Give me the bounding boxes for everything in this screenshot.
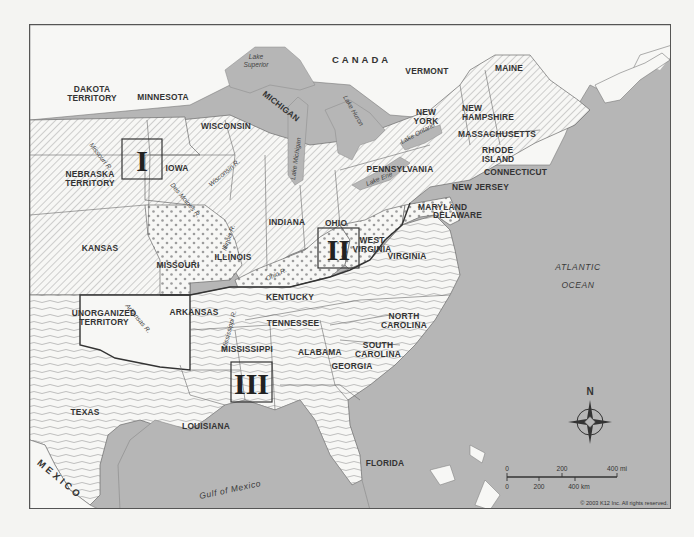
label-maine: MAINE [495, 63, 523, 73]
label-indiana: INDIANA [269, 217, 305, 227]
svg-text:III: III [234, 367, 269, 400]
label-vermont: VERMONT [405, 66, 449, 76]
label-new-jersey: NEW JERSEY [452, 182, 509, 192]
label-south-carolina-2: CAROLINA [355, 349, 401, 359]
label-wisconsin: WISCONSIN [201, 121, 251, 131]
scale-km-200: 200 [533, 483, 544, 490]
region-marker-III: III [231, 362, 272, 402]
label-new-hampshire-2: HAMPSHIRE [462, 112, 514, 122]
label-nebraska-2: TERRITORY [65, 178, 115, 188]
label-delaware: DELAWARE [433, 210, 482, 220]
label-ohio: OHIO [325, 218, 347, 228]
scale-km-0: 0 [505, 483, 509, 490]
svg-text:N: N [586, 386, 593, 397]
label-mississippi: MISSISSIPPI [221, 344, 273, 354]
copyright-text: © 2003 K12 Inc. All rights reserved. [580, 500, 668, 506]
label-kansas: KANSAS [82, 243, 119, 253]
svg-text:II: II [327, 233, 350, 266]
label-louisiana: LOUISIANA [182, 421, 230, 431]
label-virginia: VIRGINIA [388, 251, 427, 261]
label-pennsylvania: PENNSYLVANIA [367, 164, 434, 174]
scale-mi-400: 400 mi [607, 465, 627, 472]
label-west-virginia-2: VIRGINIA [353, 244, 392, 254]
map-canvas: I II III CANADA MEXICO ATLANTIC OCEAN Gu… [30, 25, 671, 509]
label-alabama: ALABAMA [298, 347, 342, 357]
label-illinois: ILLINOIS [215, 252, 252, 262]
label-missouri: MISSOURI [156, 260, 199, 270]
label-south-carolina-pad: CAROLINA [381, 320, 427, 330]
label-iowa: IOWA [165, 163, 188, 173]
label-rhode-island-2: ISLAND [482, 154, 514, 164]
label-georgia: GEORGIA [332, 361, 373, 371]
label-florida: FLORIDA [366, 458, 405, 468]
scale-km-400: 400 km [568, 483, 590, 490]
label-massachusetts: MASSACHUSETTS [458, 129, 536, 139]
scale-mi-200: 200 [556, 465, 567, 472]
label-lake-superior-2: Superior [244, 61, 270, 69]
label-minnesota: MINNESOTA [137, 92, 188, 102]
label-atlantic: ATLANTIC [554, 262, 601, 272]
label-canada: CANADA [332, 54, 391, 65]
label-kentucky: KENTUCKY [266, 292, 314, 302]
label-connecticut: CONNECTICUT [484, 167, 548, 177]
label-texas: TEXAS [71, 407, 100, 417]
scale-mi-0: 0 [505, 465, 509, 472]
label-dakota-2: TERRITORY [67, 93, 117, 103]
svg-text:I: I [136, 144, 148, 177]
label-unorganized-2: TERRITORY [79, 317, 129, 327]
label-ocean: OCEAN [561, 280, 594, 290]
label-new-york-2: YORK [414, 116, 439, 126]
label-arkansas: ARKANSAS [169, 307, 218, 317]
label-lake-superior-1: Lake [249, 53, 264, 60]
map-frame: I II III CANADA MEXICO ATLANTIC OCEAN Gu… [29, 24, 671, 509]
label-tennessee: TENNESSEE [267, 318, 320, 328]
